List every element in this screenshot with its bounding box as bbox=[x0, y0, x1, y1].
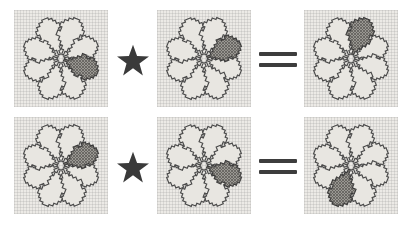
rosette-1-3 bbox=[304, 10, 398, 107]
figure-stage: Two rows, each showing two eight-petal r… bbox=[0, 0, 412, 226]
rosette-graphic bbox=[14, 10, 108, 107]
rosette-panel bbox=[14, 117, 108, 214]
equals-operator bbox=[256, 41, 300, 79]
rosette-panel bbox=[157, 10, 251, 107]
rosette-graphic bbox=[304, 117, 398, 214]
star-operator bbox=[113, 148, 153, 186]
rosette-graphic bbox=[157, 117, 251, 214]
rosette-graphic bbox=[304, 10, 398, 107]
rosette-graphic bbox=[14, 117, 108, 214]
rosette-panel bbox=[14, 10, 108, 107]
star-operator bbox=[113, 41, 153, 79]
equals-operator bbox=[256, 148, 300, 186]
star-icon bbox=[116, 151, 150, 184]
rosette-2-3 bbox=[304, 117, 398, 214]
rosette-2-2 bbox=[157, 117, 251, 214]
equals-icon bbox=[259, 157, 297, 177]
equation-row bbox=[0, 3, 412, 111]
star-icon bbox=[116, 44, 150, 77]
rosette-graphic bbox=[157, 10, 251, 107]
equals-icon bbox=[259, 50, 297, 70]
rosette-panel bbox=[157, 117, 251, 214]
rosette-2-1 bbox=[14, 117, 108, 214]
rosette-panel bbox=[304, 117, 398, 214]
rosette-1-1 bbox=[14, 10, 108, 107]
rosette-panel bbox=[304, 10, 398, 107]
figure-description: Two rows, each showing two eight-petal r… bbox=[0, 0, 1, 1]
equation-row bbox=[0, 110, 412, 218]
rosette-1-2 bbox=[157, 10, 251, 107]
